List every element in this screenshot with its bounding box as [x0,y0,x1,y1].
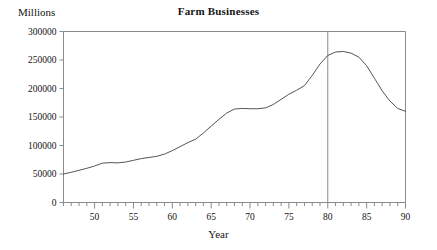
line-chart-plot: 050000100000150000200000250000300000 505… [0,0,437,250]
y-tick-label: 100000 [28,141,57,151]
x-tick-label: 75 [284,212,294,222]
y-tick-label: 300000 [28,27,57,37]
x-tick-label: 80 [323,212,333,222]
y-tick-label: 150000 [28,112,57,122]
x-tick-label: 55 [129,212,139,222]
y-axis-ticks: 050000100000150000200000250000300000 [28,27,64,208]
plot-frame [64,32,406,203]
x-tick-label: 50 [90,212,100,222]
chart-page: Farm Businesses Millions Year 0500001000… [0,0,437,250]
y-tick-label: 0 [52,198,57,208]
x-tick-label: 60 [168,212,178,222]
y-tick-label: 200000 [28,84,57,94]
data-series-line [64,51,406,174]
x-tick-label: 65 [206,212,216,222]
data-series-group [64,51,406,174]
y-tick-label: 250000 [28,55,57,65]
y-tick-label: 50000 [33,169,57,179]
x-axis-ticks: 505560657075808590 [64,203,411,222]
x-tick-label: 85 [362,212,372,222]
x-tick-label: 90 [401,212,411,222]
x-tick-label: 70 [245,212,255,222]
